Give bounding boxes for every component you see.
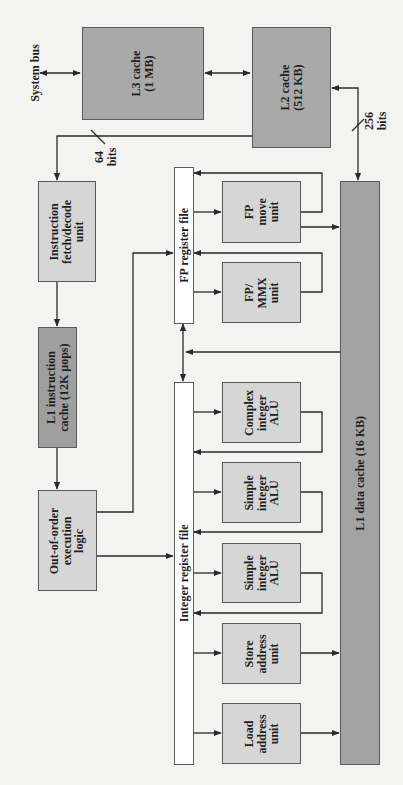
simple-integer-alu-1: Simple integer ALU: [222, 462, 301, 523]
ooo-fpreg-arrow: [96, 253, 173, 512]
l1-instruction-cache: L1 instruction cache (12K µops): [38, 327, 77, 448]
fp-register-file-label: FP register file: [178, 208, 191, 283]
l1-data-cache: L1 data cache (16 KB): [340, 181, 380, 765]
l2-l1d-arrow: [332, 88, 358, 180]
simple-integer-alu-2: Simple integer ALU: [222, 543, 301, 603]
l1-instruction-cache-label: L1 instruction cache (12K µops): [45, 343, 70, 431]
integer-register-file: Integer register file: [174, 382, 194, 765]
fp-mmx-unit-label: FP/ MMX unit: [243, 277, 281, 308]
simple-integer-alu-1-label: Simple integer ALU: [243, 475, 281, 511]
integer-register-file-label: Integer register file: [178, 525, 191, 623]
fp-mmx-unit: FP/ MMX unit: [222, 262, 301, 323]
l3-cache-label: L3 cache (1 MB): [130, 51, 155, 97]
instruction-fetch-decode-label: Instruction fetch/decode unit: [48, 200, 86, 264]
fp-move-unit: FP move unit: [222, 181, 301, 243]
instruction-fetch-decode-unit: Instruction fetch/decode unit: [38, 181, 96, 282]
bits-64-label: 64 bits: [93, 144, 121, 170]
store-address-unit-label: Store address unit: [243, 634, 281, 673]
bits-64-slash: [91, 130, 105, 144]
complex-integer-alu: Complex integer ALU: [222, 382, 301, 443]
bits-256-label: 256 bits: [363, 104, 391, 138]
out-of-order-label: Out-of-order execution logic: [49, 507, 87, 574]
system-bus-label: System bus: [29, 33, 43, 113]
simple-integer-alu-2-label: Simple integer ALU: [243, 555, 281, 591]
complex-integer-alu-label: Complex integer ALU: [243, 390, 281, 436]
load-address-unit-label: Load address unit: [243, 714, 281, 753]
fp-move-unit-label: FP move unit: [243, 198, 281, 225]
out-of-order-execution-logic: Out-of-order execution logic: [38, 490, 97, 591]
l2-cache-label: L2 cache (512 KB): [279, 64, 304, 110]
store-address-unit: Store address unit: [222, 623, 301, 684]
l3-cache: L3 cache (1 MB): [82, 27, 204, 120]
fp-register-file: FP register file: [174, 167, 194, 324]
l1-data-cache-label: L1 data cache (16 KB): [354, 416, 367, 531]
l2-cache: L2 cache (512 KB): [252, 27, 331, 148]
load-address-unit: Load address unit: [222, 703, 301, 764]
